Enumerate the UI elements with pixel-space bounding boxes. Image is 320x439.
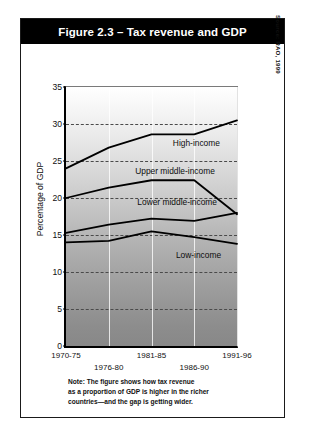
x-axis-tick-label: 1970-75 [51, 351, 80, 360]
gridline-vertical [237, 87, 238, 346]
chart: Percentage of GDP 051015202530351970-751… [21, 44, 284, 364]
y-axis-tick-label: 0 [57, 341, 62, 351]
x-axis-tick-label: 1991-96 [222, 351, 251, 360]
series-line [66, 231, 237, 244]
y-axis-tick-label: 10 [52, 267, 62, 277]
figure-title-bar: Figure 2.3 – Tax revenue and GDP [21, 19, 284, 44]
y-axis-tick-label: 30 [52, 119, 62, 129]
series-annotation: Lower middle-income [137, 197, 217, 207]
x-axis-tick-label: 1986-90 [180, 363, 209, 372]
series-annotation: High-income [173, 138, 220, 148]
y-axis-tick-label: 35 [52, 82, 62, 92]
x-axis-tick-label: 1981-85 [137, 351, 166, 360]
y-axis-tick-label: 5 [57, 304, 62, 314]
figure-body: Source: RAO, 1999 Percentage of GDP 0510… [21, 44, 284, 419]
series-annotation: Upper middle-income [135, 166, 215, 176]
series-line [66, 213, 237, 233]
figure-container: Figure 2.3 – Tax revenue and GDP Source:… [20, 18, 285, 418]
note-line-3: countries—and the gap is getting wider. [68, 397, 268, 407]
figure-note: Note: The figure shows how tax revenue a… [68, 377, 268, 408]
x-axis-tick-label: 1976-80 [94, 363, 123, 372]
page-title: Figure 2.3 – Tax revenue and GDP [58, 26, 246, 38]
y-axis-tick-label: 25 [52, 156, 62, 166]
y-axis-tick-label: 15 [52, 230, 62, 240]
note-line-1: Note: The figure shows how tax revenue [68, 377, 268, 387]
series-lines [66, 87, 237, 346]
note-line-2: as a proportion of GDP is higher in the … [68, 387, 268, 397]
y-axis-tick-label: 20 [52, 193, 62, 203]
plot-area: 051015202530351970-751976-801981-851986-… [64, 86, 238, 348]
y-axis-label: Percentage of GDP [35, 134, 45, 264]
series-annotation: Low-income [176, 250, 221, 260]
